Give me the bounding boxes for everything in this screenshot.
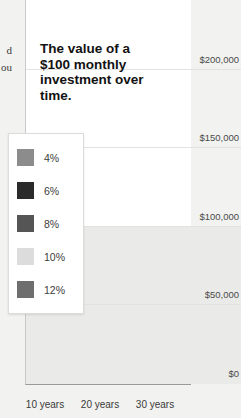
chart-legend: 4%6%8%10%12% — [8, 133, 84, 314]
legend-item[interactable]: 4% — [9, 141, 83, 174]
legend-item[interactable]: 8% — [9, 207, 83, 240]
legend-swatch — [17, 281, 34, 298]
y-axis-tick-label: $50,000 — [205, 289, 239, 300]
legend-item-label: 4% — [44, 152, 59, 164]
chart-title: The value of a $100 monthly investment o… — [40, 41, 160, 103]
legend-swatch — [17, 248, 34, 265]
legend-swatch — [17, 182, 34, 199]
cutoff-text-fragment: d — [0, 42, 12, 59]
y-axis-tick-label: $100,000 — [199, 210, 239, 221]
legend-item[interactable]: 12% — [9, 273, 83, 306]
y-axis-tick-label: $200,000 — [199, 53, 239, 64]
x-axis-tick-label: 30 years — [136, 399, 174, 410]
y-axis-tick-label: $150,000 — [199, 132, 239, 143]
legend-item-label: 12% — [44, 284, 65, 296]
legend-item[interactable]: 6% — [9, 174, 83, 207]
legend-swatch — [17, 215, 34, 232]
legend-item-label: 8% — [44, 218, 59, 230]
cutoff-text-fragment: ou — [0, 59, 12, 76]
cutoff-body-text: d ou — [0, 42, 12, 76]
legend-item-label: 10% — [44, 251, 65, 263]
y-axis-tick-label: $0 — [228, 368, 239, 379]
x-axis-tick-label: 20 years — [81, 399, 119, 410]
x-axis-tick-label: 10 years — [26, 399, 64, 410]
legend-item-label: 6% — [44, 185, 59, 197]
legend-swatch — [17, 149, 34, 166]
legend-item[interactable]: 10% — [9, 240, 83, 273]
